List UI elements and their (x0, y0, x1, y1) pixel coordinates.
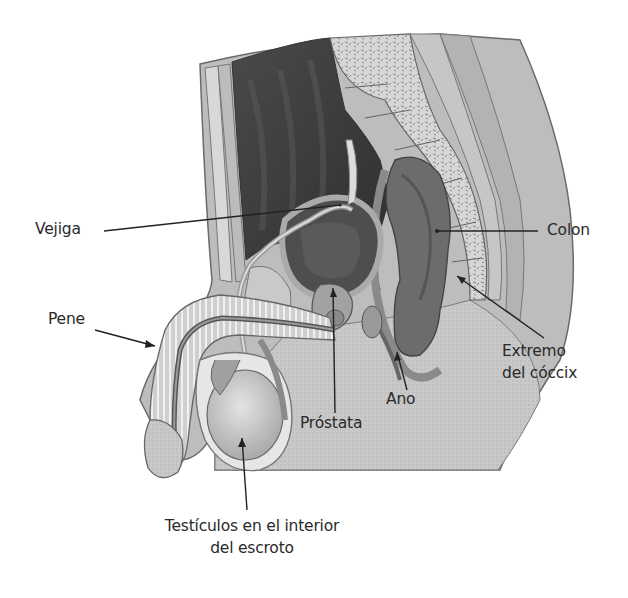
label-ano: Ano (386, 390, 415, 409)
anatomy-illustration (0, 0, 628, 598)
label-testiculos-line1: Testículos en el interior (148, 517, 356, 536)
pene-arrowhead (145, 340, 155, 348)
label-prostata: Próstata (300, 414, 362, 433)
anatomy-diagram: Vejiga Pene Colon Extremo del cóccix Ano… (0, 0, 628, 598)
label-pene: Pene (48, 310, 85, 329)
label-vejiga: Vejiga (35, 220, 81, 239)
label-extremo-coccix-line1: Extremo (502, 342, 566, 361)
label-testiculos-line2: del escroto (148, 539, 356, 558)
label-extremo-coccix-line2: del cóccix (502, 364, 577, 383)
label-colon: Colon (547, 221, 590, 240)
